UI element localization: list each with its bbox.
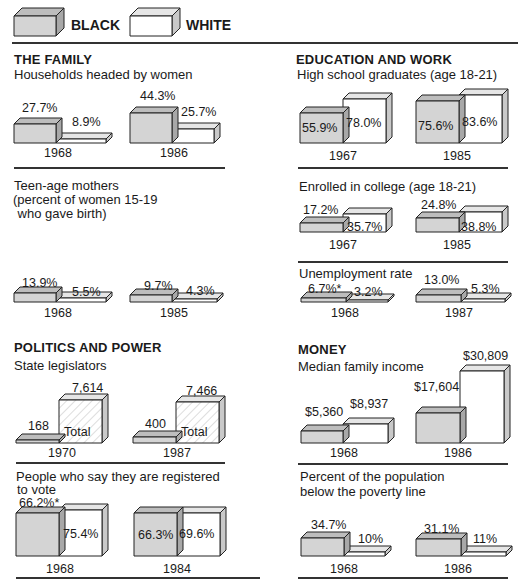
households-1968-white-value: 8.9% bbox=[72, 115, 101, 129]
income-1968-year: 1968 bbox=[304, 446, 384, 460]
family-divider bbox=[14, 167, 225, 169]
teen-subtitle-line1: Teen-age mothers bbox=[14, 178, 119, 193]
legend-white-swatch-box-face bbox=[130, 16, 172, 36]
legislators-1970-black-bar-face bbox=[16, 440, 59, 443]
unemployment-1968-white-bar-face bbox=[346, 300, 388, 302]
poverty-1986-year: 1986 bbox=[418, 562, 498, 576]
unemployment-1987-black-bar-top bbox=[416, 289, 467, 295]
income-1968-black-bar-top bbox=[301, 425, 349, 431]
income-1986-black-bar-face bbox=[416, 413, 460, 443]
legend-black-swatch bbox=[14, 12, 15, 13]
teen-1985-black-value: 9.7% bbox=[144, 279, 173, 293]
section-title-money: MONEY bbox=[298, 342, 347, 357]
income-1986-white-bar-face bbox=[460, 371, 504, 443]
college-1967-white-bar-top bbox=[343, 208, 392, 214]
unemployment-1968-white-value: 3.2% bbox=[354, 285, 383, 299]
voting-1984-black-value: 66.3% bbox=[138, 528, 173, 542]
income-1968-black-value: $5,360 bbox=[305, 405, 343, 419]
households-1968-white-bar-top bbox=[56, 133, 112, 139]
poverty-1968-white-bar-top bbox=[344, 546, 391, 552]
voting-1984-white-bar-side bbox=[220, 507, 226, 556]
voting-1984-white-value: 69.6% bbox=[179, 527, 214, 541]
poverty-1968-black-bar-face bbox=[301, 538, 344, 556]
highschool-divider bbox=[298, 167, 508, 169]
poverty-1968-white-bar-face bbox=[344, 552, 385, 556]
income-1986-white-value: $30,809 bbox=[463, 349, 508, 363]
poverty-1986-black-bar-face bbox=[416, 539, 461, 556]
households-1986-black-bar-face bbox=[130, 113, 172, 143]
income-1986-white-bar-top bbox=[460, 365, 510, 371]
legislators-subtitle: State legislators bbox=[14, 358, 107, 373]
income-1986-white-bar-side bbox=[504, 365, 510, 443]
college-1967-white-value: 35.7% bbox=[347, 220, 382, 234]
households-1968-black-bar-face bbox=[14, 124, 56, 143]
households-1986-black-value: 44.3% bbox=[140, 89, 175, 103]
voting-subtitle-line2: to vote bbox=[17, 482, 56, 497]
highschool-1967-white-bar-top bbox=[343, 93, 392, 99]
legend-black-label: BLACK bbox=[71, 17, 120, 33]
teen-subtitle-line2: (percent of women 15-19 bbox=[13, 192, 158, 207]
unemployment-1968-black-bar-face bbox=[301, 298, 346, 302]
college-1985-white-value: 38.8% bbox=[461, 220, 496, 234]
unemployment-subtitle: Unemployment rate bbox=[299, 266, 412, 281]
legend-white-swatch bbox=[130, 12, 131, 13]
poverty-1986-white-bar-top bbox=[461, 546, 512, 552]
college-1967-year: 1967 bbox=[303, 238, 383, 252]
highschool-1967-white-bar-side bbox=[386, 93, 392, 143]
income-subtitle: Median family income bbox=[298, 359, 424, 374]
college-1985-black-bar-face bbox=[416, 218, 459, 232]
households-1968-black-value: 27.7% bbox=[22, 101, 57, 115]
highschool-1985-black-value: 75.6% bbox=[418, 119, 453, 133]
legislators-1970-total-bar-side bbox=[102, 394, 108, 443]
teen-1968-black-bar-face bbox=[14, 293, 56, 302]
unemployment-1987-white-bar-face bbox=[461, 299, 505, 302]
poverty-1968-white-value: 10% bbox=[358, 532, 383, 546]
unemployment-1968-year: 1968 bbox=[305, 306, 385, 320]
income-1986-year: 1986 bbox=[418, 446, 498, 460]
legislators-1970-total-value: 7,614 bbox=[72, 381, 103, 395]
college-1985-year: 1985 bbox=[417, 238, 497, 252]
voting-1984-black-bar-top bbox=[134, 507, 183, 513]
legislators-1970-year: 1970 bbox=[22, 446, 102, 460]
highschool-1985-white-value: 83.6% bbox=[462, 115, 497, 129]
unemployment-1987-black-bar-face bbox=[416, 295, 461, 302]
legislators-1987-total-value: 7,466 bbox=[186, 384, 217, 398]
voting-1968-black-bar-face bbox=[16, 513, 59, 556]
teen-1985-white-value: 4.3% bbox=[186, 284, 215, 298]
poverty-subtitle-line1: Percent of the population bbox=[300, 469, 445, 484]
poverty-1986-black-value: 31.1% bbox=[424, 522, 459, 536]
legend-black-swatch-box-face bbox=[14, 16, 56, 36]
highschool-1985-white-bar-side bbox=[502, 89, 508, 143]
income-1968-black-bar-face bbox=[301, 431, 343, 443]
income-divider bbox=[298, 463, 508, 465]
highschool-1985-white-bar-top bbox=[459, 89, 508, 95]
teen-subtitle-line3: who gave birth) bbox=[14, 206, 107, 221]
households-1968-black-bar-top bbox=[14, 118, 62, 124]
poverty-1986-white-value: 11% bbox=[473, 532, 497, 546]
income-1968-white-bar-face bbox=[343, 424, 388, 443]
poverty-1968-black-bar-top bbox=[301, 532, 350, 538]
section-title-education: EDUCATION AND WORK bbox=[296, 52, 452, 67]
college-1985-black-value: 24.8% bbox=[421, 198, 456, 212]
income-1968-white-bar-top bbox=[343, 418, 394, 424]
highschool-subtitle: High school graduates (age 18-21) bbox=[297, 67, 497, 82]
households-subtitle: Households headed by women bbox=[14, 67, 193, 82]
section-title-family: THE FAMILY bbox=[14, 52, 92, 67]
legislators-1970-black-bar-top bbox=[16, 434, 65, 440]
voting-1968-white-bar-side bbox=[102, 504, 108, 556]
legislators-1987-total-bar-side bbox=[219, 396, 225, 443]
teen-1985-year: 1985 bbox=[134, 306, 214, 320]
legislators-1970-black-value: 168 bbox=[28, 419, 49, 433]
college-1967-black-value: 17.2% bbox=[303, 203, 338, 217]
voting-1968-white-bar-top bbox=[59, 504, 108, 510]
poverty-1968-year: 1968 bbox=[304, 562, 384, 576]
legislators-1970-total-word: Total bbox=[64, 425, 90, 439]
unemployment-1987-white-value: 5.3% bbox=[471, 282, 500, 296]
households-1968-year: 1968 bbox=[18, 146, 98, 160]
legislators-1987-total-word: Total bbox=[181, 425, 207, 439]
income-1986-black-bar-top bbox=[416, 407, 466, 413]
highschool-1985-black-bar-top bbox=[416, 95, 465, 101]
legend-white-label: WHITE bbox=[186, 17, 231, 33]
college-subtitle: Enrolled in college (age 18-21) bbox=[299, 179, 476, 194]
legislators-1987-black-value: 400 bbox=[145, 417, 166, 431]
